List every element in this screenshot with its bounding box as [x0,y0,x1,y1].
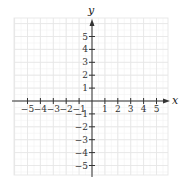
x-tick-label: −2 [60,104,73,114]
grid-lines [14,18,168,175]
y-tick-label: 4 [82,44,88,54]
x-tick-label: −4 [34,104,48,114]
x-tick-label: 3 [128,104,134,114]
y-tick-label: 5 [82,32,88,42]
y-arrow-icon [90,19,95,26]
fine-grid-lines [14,18,168,175]
y-tick-label: −2 [75,122,88,132]
x-tick-label: 1 [102,104,108,114]
y-tick-label: 2 [82,70,88,80]
x-tick-label: 2 [115,104,121,114]
y-tick-label: −3 [75,135,89,145]
y-tick-label: −4 [75,148,89,158]
x-tick-label: 4 [141,104,147,114]
y-axis-label: y [87,4,95,17]
x-tick-label: −5 [21,104,35,114]
y-tick-label: −1 [75,109,88,119]
y-tick-label: 1 [82,83,88,93]
x-tick-labels: −5−4−3−2−112345 [21,104,160,114]
y-tick-label: −5 [75,161,89,171]
y-tick-label: 3 [82,57,88,67]
coordinate-grid: −5−4−3−2−112345 54321−1−2−3−4−5 x y [0,0,186,188]
x-tick-label: −3 [47,104,61,114]
x-arrow-icon [163,99,170,104]
x-axis-label: x [172,94,179,107]
x-tick-label: 5 [154,104,160,114]
